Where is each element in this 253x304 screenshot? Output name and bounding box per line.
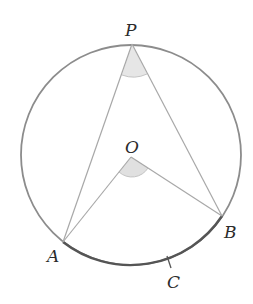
segment-ob bbox=[131, 157, 222, 216]
circle-theorem-diagram: P O A B C bbox=[0, 0, 253, 304]
label-a: A bbox=[45, 246, 59, 266]
label-p: P bbox=[124, 20, 137, 40]
label-b: B bbox=[223, 222, 237, 242]
segment-pa bbox=[63, 44, 132, 242]
label-o: O bbox=[125, 137, 139, 157]
segment-pb bbox=[132, 44, 222, 216]
label-c: C bbox=[167, 272, 180, 292]
arc-acb bbox=[63, 216, 222, 265]
segment-oa bbox=[63, 157, 131, 242]
